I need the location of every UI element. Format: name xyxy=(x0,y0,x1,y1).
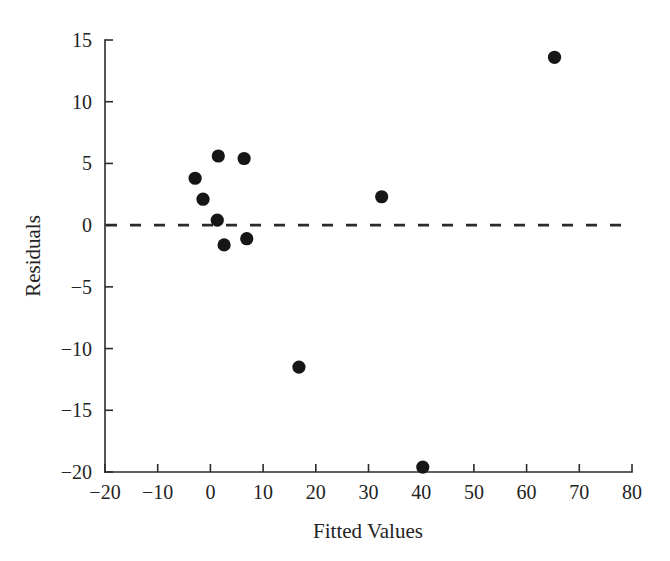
data-point xyxy=(548,51,561,64)
y-tick-label-2: 5 xyxy=(82,152,92,174)
scatter-plot-canvas: 151050−5−10−15−20 −20−100102030405060708… xyxy=(0,0,670,561)
x-tick-label-10: 80 xyxy=(622,481,642,503)
y-tick-label-3: 0 xyxy=(82,214,92,236)
data-point xyxy=(240,232,253,245)
x-tick-label-3: 10 xyxy=(253,481,273,503)
residual-plot-figure: 151050−5−10−15−20 −20−100102030405060708… xyxy=(0,0,670,561)
y-tick-label-7: −20 xyxy=(61,461,92,483)
x-tick-label-6: 40 xyxy=(411,481,431,503)
y-axis-tick-labels: 151050−5−10−15−20 xyxy=(61,29,92,483)
x-tick-label-8: 60 xyxy=(517,481,537,503)
data-points-group xyxy=(189,51,562,474)
x-tick-label-2: 0 xyxy=(205,481,215,503)
y-tick-label-6: −15 xyxy=(61,399,92,421)
x-axis-title: Fitted Values xyxy=(313,519,423,543)
x-tick-label-9: 70 xyxy=(569,481,589,503)
x-axis-ticks xyxy=(105,464,632,472)
data-point xyxy=(416,460,429,473)
x-tick-label-4: 20 xyxy=(306,481,326,503)
y-tick-label-4: −5 xyxy=(71,276,92,298)
y-tick-label-1: 10 xyxy=(72,91,92,113)
axes-spines xyxy=(105,40,632,472)
x-tick-label-5: 30 xyxy=(359,481,379,503)
data-point xyxy=(375,190,388,203)
x-tick-label-0: −20 xyxy=(89,481,120,503)
y-axis-title: Residuals xyxy=(21,215,45,297)
data-point xyxy=(189,172,202,185)
data-point xyxy=(292,360,305,373)
data-point xyxy=(212,149,225,162)
x-tick-label-1: −10 xyxy=(142,481,173,503)
y-tick-label-0: 15 xyxy=(72,29,92,51)
y-axis-ticks xyxy=(105,40,113,472)
y-tick-label-5: −10 xyxy=(61,338,92,360)
data-point xyxy=(196,193,209,206)
data-point xyxy=(238,152,251,165)
x-tick-label-7: 50 xyxy=(464,481,484,503)
data-point xyxy=(218,238,231,251)
data-point xyxy=(211,214,224,227)
x-axis-tick-labels: −20−1001020304050607080 xyxy=(89,481,642,503)
